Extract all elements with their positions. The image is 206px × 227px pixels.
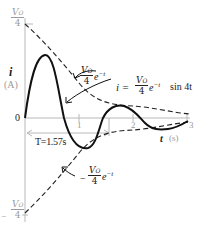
- upper-envelope-exp: e−t: [94, 71, 105, 82]
- upper-envelope-curve: [25, 24, 190, 114]
- y-tick-bottom-sign: −: [1, 212, 6, 221]
- t-tick-label-2: 2: [131, 121, 136, 130]
- y-axis-unit: (A): [4, 80, 18, 90]
- damped-response-plot: [0, 0, 206, 227]
- upper-envelope-fraction: VO 4: [80, 66, 93, 86]
- t-tick-label-1: 1: [77, 121, 82, 130]
- response-exp: e−t: [149, 82, 160, 93]
- response-equation-lhs: i =: [116, 82, 129, 93]
- period-label: T=1.57s: [35, 137, 66, 147]
- lower-envelope-exp: e−t: [102, 171, 113, 182]
- t-axis-label: t: [160, 134, 163, 144]
- lower-envelope-leader: [63, 168, 75, 176]
- response-fraction: VO 4: [135, 76, 148, 96]
- y-axis-label: i: [9, 66, 12, 78]
- t-axis-unit: (s): [169, 134, 179, 143]
- t-tick-label-3: 3: [189, 121, 194, 130]
- y-tick-bottom-label: VO 4: [11, 200, 24, 220]
- y-tick-top-label: VO 4: [11, 8, 24, 28]
- zero-label: 0: [15, 113, 20, 123]
- lower-envelope-sign: −: [80, 174, 86, 184]
- response-trig: sin 4t: [170, 82, 192, 92]
- lower-envelope-fraction: VO 4: [88, 166, 101, 186]
